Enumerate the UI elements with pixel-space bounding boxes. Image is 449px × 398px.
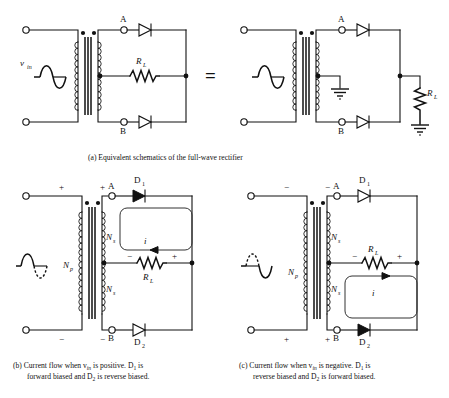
c-secondary-label-bottom-sub: s <box>338 290 341 296</box>
c-load-polarity-right: + <box>397 251 402 261</box>
c-secondary-label-top-sub: s <box>338 238 341 244</box>
secondary-wire-bottom <box>98 110 121 122</box>
b-diode-d1-filled: D 1 <box>115 175 192 202</box>
caption-c-l1b: is negative. D <box>317 361 361 370</box>
b-transformer-core <box>89 207 95 319</box>
b-load-resistor: R L − + <box>127 251 177 284</box>
c-waveform <box>241 254 272 278</box>
c-load-label-sub: L <box>374 250 379 256</box>
c-node-a-terminal <box>334 193 340 199</box>
ground-icon-center-tap <box>331 89 349 99</box>
c-current-loop: i <box>345 273 417 318</box>
b-polarity-dot-secondary <box>96 201 100 205</box>
c-secondary-label-bottom: N <box>330 284 338 294</box>
b-primary-label-sub: p <box>69 266 73 272</box>
b-current-arrow-icon <box>150 247 158 254</box>
b-load-polarity-left: − <box>127 251 132 261</box>
diode-bottom-outline <box>127 116 186 128</box>
c-load-label: R <box>367 244 374 254</box>
caption-b-l2b: is reverse biased. <box>95 372 149 381</box>
c-primary-label: N <box>287 267 295 277</box>
c-polarity-sec-bottom: + <box>325 334 330 344</box>
ground-icon-load <box>411 125 429 135</box>
c-current-label: i <box>372 288 375 298</box>
b-primary-wire-bottom <box>29 314 82 330</box>
b-secondary-wire-top <box>102 196 108 212</box>
input-terminal-bottom-2 <box>241 119 247 125</box>
b-diode-d1-label: D <box>134 175 141 185</box>
b-secondary-label-bottom-sub: s <box>113 290 116 296</box>
caption-c-l1: (c) Current flow when v <box>239 361 313 370</box>
c-load-resistor: R L − + <box>352 244 402 269</box>
output-node <box>184 74 189 79</box>
caption-c-l2b: is forward biased. <box>319 372 375 381</box>
c-input-terminal-bottom <box>248 327 254 333</box>
figure-root: v in <box>0 0 449 398</box>
panel-a-right-circuit: A B <box>241 14 438 136</box>
caption-b-l1c: is <box>136 361 143 370</box>
b-polarity-in-top: + <box>59 182 64 192</box>
load-label-vertical-sub: L <box>433 94 438 100</box>
diode-top-outline <box>127 24 186 36</box>
source-label: v <box>20 58 24 68</box>
load-resistor-vertical: R L <box>400 76 438 135</box>
polarity-dot-secondary <box>92 31 96 35</box>
c-primary-wire-top <box>254 196 307 212</box>
node-a-terminal-2 <box>339 27 345 33</box>
polarity-dot-secondary-2 <box>310 31 314 35</box>
center-tap-node <box>98 74 103 79</box>
transformer-primary-winding <box>75 42 78 110</box>
c-polarity-in-top: − <box>284 182 289 192</box>
b-primary-label: N <box>62 260 70 270</box>
c-node-a-label: A <box>333 181 340 191</box>
b-secondary-label-bottom: N <box>105 284 113 294</box>
b-diode-d2-outline: D 2 <box>115 324 192 349</box>
b-node-a-terminal <box>109 193 115 199</box>
node-b-terminal-2 <box>339 119 345 125</box>
b-waveform <box>16 254 47 278</box>
primary-wire-top-2 <box>247 30 296 42</box>
caption-a: (a) Equivalent schematics of the full-wa… <box>88 153 243 162</box>
caption-c-l2: reverse biased and D <box>253 372 317 381</box>
c-primary-label-sub: p <box>294 273 298 279</box>
c-polarity-in-bottom: + <box>284 334 289 344</box>
node-a-terminal <box>121 27 127 33</box>
c-polarity-dot-secondary <box>321 201 325 205</box>
center-tap-node-2 <box>316 74 321 79</box>
c-diode-d2-sub: 2 <box>367 343 370 349</box>
b-node-a-label: A <box>108 181 115 191</box>
c-diode-d1-outline: D 1 <box>340 175 417 202</box>
b-secondary-label-top-sub: s <box>113 238 116 244</box>
svg-text:reverse biased and D2 is forwa: reverse biased and D2 is forward biased. <box>253 372 375 382</box>
b-transformer-primary: N p <box>62 212 82 314</box>
input-terminal-bottom <box>23 119 29 125</box>
b-polarity-dot-primary <box>85 201 89 205</box>
b-output-node <box>190 261 195 266</box>
node-b-terminal <box>121 119 127 125</box>
node-b-label: B <box>120 126 126 136</box>
b-secondary-label-top: N <box>105 232 113 242</box>
caption-b: (b) Current flow when vin is positive. D… <box>13 361 149 382</box>
equals-sign: = <box>205 65 216 86</box>
transformer-primary-winding-2 <box>293 42 296 110</box>
diode-bottom-outline-2 <box>345 116 400 128</box>
b-node-b-label: B <box>108 333 114 343</box>
c-input-terminal-top <box>248 193 254 199</box>
source-symbol: v in <box>20 58 66 88</box>
svg-text:(c) Current flow when vin is n: (c) Current flow when vin is negative. D… <box>239 361 370 371</box>
panel-a-left-circuit: v in <box>20 14 188 136</box>
c-current-arrow-icon <box>382 273 390 280</box>
load-label-vertical: R <box>426 88 433 98</box>
source-label-sub: in <box>27 64 32 70</box>
caption-b-l1: (b) Current flow when v <box>13 361 87 370</box>
b-current-loop: i <box>120 208 192 253</box>
primary-wire-top <box>29 30 78 42</box>
c-polarity-dot-primary <box>310 201 314 205</box>
polarity-dot-primary-2 <box>299 31 303 35</box>
b-input-terminal-top <box>23 193 29 199</box>
svg-text:forward biased and D2 is rever: forward biased and D2 is reverse biased. <box>27 372 149 382</box>
c-center-tap-node <box>327 261 332 266</box>
b-primary-wire-top <box>29 196 82 212</box>
c-transformer-primary: N p <box>287 212 307 314</box>
polarity-dot-primary <box>81 31 85 35</box>
